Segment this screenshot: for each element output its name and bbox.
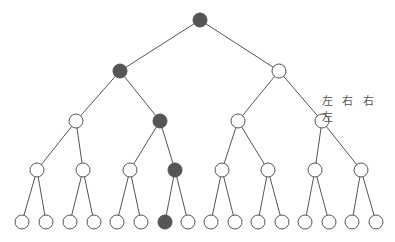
tree-node-empty (87, 215, 101, 229)
tree-edge (83, 170, 94, 222)
tree-edge (117, 170, 130, 222)
tree-node-empty (39, 215, 53, 229)
tree-node-empty (354, 163, 368, 177)
tree-node-empty (30, 163, 44, 177)
tree-edge (120, 20, 200, 71)
tree-node-empty (345, 215, 359, 229)
tree-edge (268, 170, 282, 222)
tree-node-empty (63, 215, 77, 229)
tree-edge (120, 71, 160, 121)
tree-node-empty (272, 64, 286, 78)
tree-node-empty (275, 215, 289, 229)
tree-node-empty (308, 163, 322, 177)
tree-edge (361, 170, 376, 222)
tree-edge (160, 121, 175, 170)
binary-tree-diagram: 左 右 右 左 (0, 0, 395, 242)
tree-node-filled (153, 114, 167, 128)
tree-node-empty (69, 114, 83, 128)
tree-edge (222, 170, 235, 222)
tree-node-empty (215, 163, 229, 177)
path-label: 左 右 右 左 (322, 92, 395, 124)
tree-edge (352, 170, 361, 222)
tree-edge (211, 170, 222, 222)
tree-edge (70, 170, 83, 222)
tree-edge (322, 121, 361, 170)
tree-edge (222, 121, 238, 170)
tree-node-empty (15, 215, 29, 229)
tree-edge (175, 170, 188, 222)
tree-node-empty (110, 215, 124, 229)
tree-edge (238, 71, 279, 121)
tree-edge (238, 121, 268, 170)
tree-node-filled (113, 64, 127, 78)
tree-edge (315, 170, 329, 222)
tree-edge (279, 71, 322, 121)
tree-node-empty (134, 215, 148, 229)
tree-edge (130, 170, 141, 222)
tree-node-empty (251, 215, 265, 229)
tree-node-empty (123, 163, 137, 177)
tree-node-filled (193, 13, 207, 27)
tree-edge (165, 170, 175, 222)
tree-node-empty (261, 163, 275, 177)
tree-node-empty (76, 163, 90, 177)
tree-node-empty (369, 215, 383, 229)
tree-node-empty (204, 215, 218, 229)
tree-node-empty (231, 114, 245, 128)
tree-node-empty (181, 215, 195, 229)
tree-edge (22, 170, 37, 222)
tree-edge (130, 121, 160, 170)
tree-edge (37, 170, 46, 222)
tree-node-empty (298, 215, 312, 229)
tree-edge (305, 170, 315, 222)
tree-edge (76, 71, 120, 121)
tree-node-empty (228, 215, 242, 229)
tree-node-filled (168, 163, 182, 177)
tree-edge (37, 121, 76, 170)
tree-node-empty (322, 215, 336, 229)
tree-edge (258, 170, 268, 222)
tree-node-filled (158, 215, 172, 229)
tree-edge (200, 20, 279, 71)
